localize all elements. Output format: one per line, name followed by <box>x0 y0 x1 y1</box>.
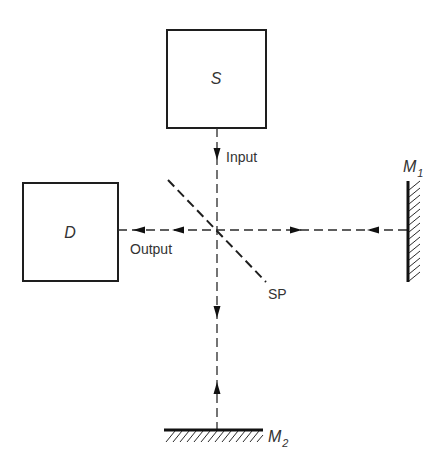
mirror-m2-label: M2 <box>268 428 288 449</box>
detector-box: D <box>23 183 118 281</box>
output-label: Output <box>130 241 172 257</box>
mirror-m2: M2 <box>164 428 288 449</box>
michelson-interferometer-diagram: S D SP M1 <box>0 0 441 467</box>
source-box: S <box>167 30 266 128</box>
to-m2-arrow-icon <box>214 306 221 318</box>
mirror-m1: M1 <box>403 158 423 282</box>
mirror-m2-hatching <box>166 431 263 442</box>
input-arrow-icon <box>214 148 221 160</box>
mirror-m1-hatching <box>409 181 420 281</box>
from-m2-arrow-icon <box>214 382 221 394</box>
mirror-m1-label: M1 <box>403 158 423 179</box>
to-m1-arrow-icon <box>290 227 302 234</box>
from-m1-arrow-icon <box>367 227 379 234</box>
beam-splitter-label: SP <box>268 286 287 302</box>
input-label: Input <box>226 149 257 165</box>
source-label: S <box>211 70 222 87</box>
output-arrow-1-icon <box>172 227 184 234</box>
detector-label: D <box>64 224 76 241</box>
output-arrow-2-icon <box>133 227 145 234</box>
